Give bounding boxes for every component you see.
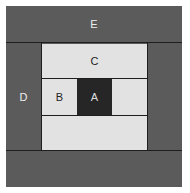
region-c: C — [42, 44, 147, 79]
region-e-label: E — [90, 18, 97, 30]
region-b: B — [42, 79, 77, 115]
region-d-right — [147, 43, 182, 151]
region-b-label: B — [56, 91, 63, 103]
region-d-label: D — [20, 91, 28, 103]
region-e: E — [6, 6, 182, 43]
region-e-bottom — [6, 150, 182, 187]
region-d: D — [6, 43, 42, 151]
region-a-label: A — [91, 91, 98, 103]
region-c-right — [112, 79, 147, 115]
region-c-bottom — [42, 115, 147, 150]
region-a: A — [77, 79, 112, 115]
region-c-label: C — [91, 55, 99, 67]
